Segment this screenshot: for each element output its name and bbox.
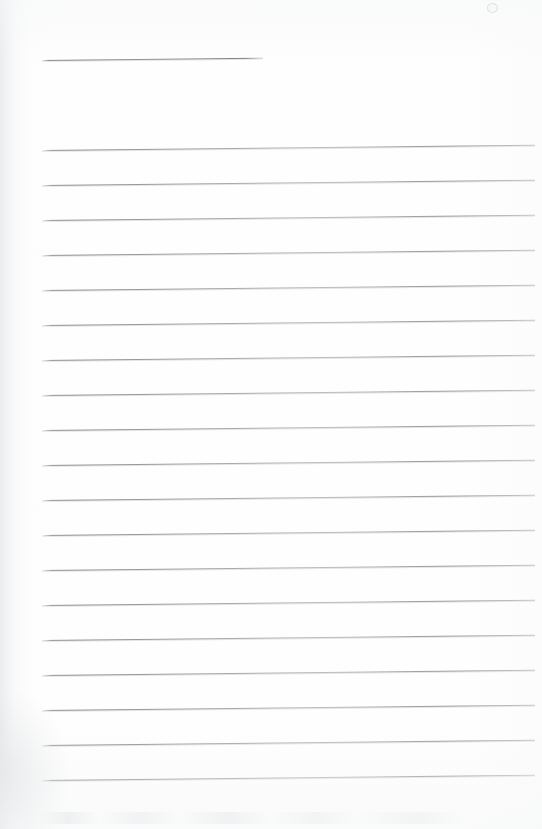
body-rule-11 bbox=[42, 495, 535, 501]
body-rule-6 bbox=[42, 320, 535, 326]
body-rule-5 bbox=[42, 285, 535, 291]
body-rule-3 bbox=[42, 215, 535, 221]
body-rule-12 bbox=[42, 530, 535, 536]
body-rule-4 bbox=[42, 250, 535, 256]
body-rule-9 bbox=[42, 425, 535, 431]
body-rule-17 bbox=[42, 705, 535, 711]
body-rule-7 bbox=[42, 355, 535, 361]
body-rule-10 bbox=[42, 460, 535, 466]
body-rule-2 bbox=[42, 180, 535, 186]
body-rule-8 bbox=[42, 390, 535, 396]
body-rule-19 bbox=[42, 775, 535, 781]
ruled-lines-layer bbox=[0, 0, 542, 829]
body-rule-13 bbox=[42, 565, 535, 571]
body-rule-16 bbox=[42, 670, 535, 676]
scan-fleck-icon bbox=[487, 3, 498, 13]
body-rule-15 bbox=[42, 635, 535, 641]
scanned-page bbox=[0, 0, 542, 829]
body-rule-18 bbox=[42, 740, 535, 746]
body-rule-14 bbox=[42, 600, 535, 606]
body-rule-1 bbox=[42, 145, 535, 151]
